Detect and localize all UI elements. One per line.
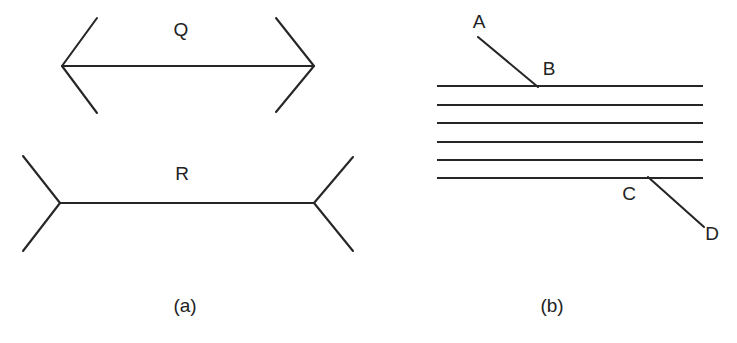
label-b: B: [543, 58, 556, 79]
q-fin-right-bottom: [276, 66, 314, 112]
r-fin-right-bottom: [314, 203, 353, 251]
illusion-figure: Q R (a): [0, 0, 737, 343]
poggendorff-panel: A B C D (b): [437, 11, 719, 316]
q-fin-left-bottom: [62, 66, 97, 113]
r-fin-left-top: [23, 156, 60, 203]
label-q: Q: [174, 19, 189, 40]
segment-cd-line: [648, 177, 704, 227]
diagonal-segment-ab: A B: [473, 11, 556, 87]
figure-canvas: Q R (a): [0, 0, 737, 343]
horizontal-line-group: [437, 86, 703, 178]
r-fin-left-bottom: [23, 203, 60, 251]
figure-q: Q: [62, 18, 314, 113]
r-fin-right-top: [314, 157, 353, 203]
segment-ab-line: [478, 37, 538, 87]
figure-r: R: [23, 156, 353, 251]
muller-lyer-panel: Q R (a): [23, 18, 353, 316]
caption-panel-b: (b): [540, 295, 563, 316]
q-fin-right-top: [276, 18, 314, 66]
label-r: R: [175, 163, 189, 184]
q-fin-left-top: [62, 18, 97, 66]
label-d: D: [705, 223, 719, 244]
diagonal-segment-cd: C D: [622, 177, 719, 244]
label-a: A: [473, 11, 486, 32]
caption-panel-a: (a): [173, 295, 196, 316]
label-c: C: [622, 183, 636, 204]
